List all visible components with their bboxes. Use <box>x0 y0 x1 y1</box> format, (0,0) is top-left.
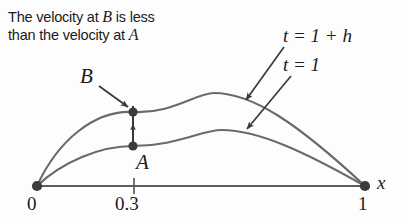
label-point-A: A <box>136 150 149 175</box>
origin-dot <box>32 181 42 191</box>
tick-label-1: 1 <box>358 193 368 215</box>
tick-label-0: 0 <box>27 193 37 215</box>
label-curve-t-1: t = 1 <box>283 54 320 76</box>
caption-var-B: B <box>102 8 112 25</box>
caption-line-1-pre: The velocity at <box>8 9 102 25</box>
callout-arrow-B <box>99 86 128 107</box>
label-curve-t-1-plus-h: t = 1 + h <box>283 25 352 47</box>
tick-label-0-3: 0.3 <box>115 193 139 215</box>
caption-line-1: The velocity at B is less <box>8 8 155 26</box>
endpoint-dot <box>360 181 370 191</box>
caption-line-2: than the velocity at A <box>8 26 155 44</box>
label-point-B: B <box>80 64 93 89</box>
curve-t-1 <box>37 130 365 186</box>
curve-t-1-plus-h <box>37 93 365 186</box>
caption-text: The velocity at B is less than the veloc… <box>8 8 155 44</box>
caption-line-2-pre: than the velocity at <box>8 27 129 43</box>
caption-var-A: A <box>129 26 139 43</box>
caption-line-1-post: is less <box>112 9 155 25</box>
label-axis-x: x <box>377 172 385 194</box>
